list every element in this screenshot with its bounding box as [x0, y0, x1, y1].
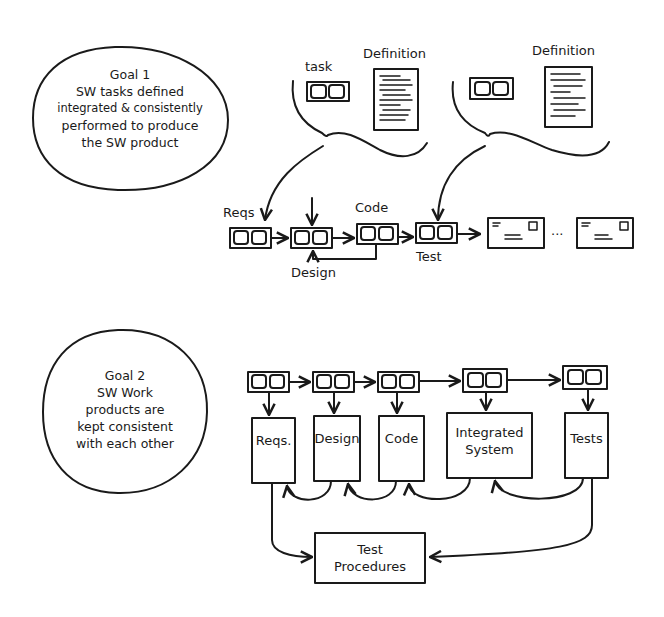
- goal1-line-2: integrated & consistently: [35, 100, 225, 117]
- test-procedures-line2: Procedures: [334, 558, 406, 575]
- test-procedures-label: Test Procedures: [315, 533, 425, 583]
- goal2-line-1: SW Work: [45, 384, 205, 401]
- definition-label-2: Definition: [532, 44, 595, 57]
- test-procedures-line1: Test: [357, 541, 383, 558]
- integrated-system-line1: Integrated: [455, 424, 523, 441]
- definition-label-1: Definition: [363, 47, 426, 60]
- design-label: Design: [291, 266, 336, 279]
- integrated-system-line2: System: [465, 441, 513, 458]
- goal2-line-2: products are: [45, 401, 205, 418]
- brace-1: [293, 81, 427, 156]
- ellipsis: ···: [551, 228, 563, 241]
- task-icon-box-2: [470, 78, 513, 99]
- task-label: task: [305, 60, 332, 73]
- definition-doc-2: [545, 67, 592, 127]
- goal1-title: Goal 1: [35, 66, 225, 83]
- design-product-label: Design: [314, 416, 360, 461]
- goal2-line-3: kept consistent: [45, 418, 205, 435]
- code-product-label: Code: [379, 416, 424, 461]
- goal2-text: Goal 2 SW Work products are kept consist…: [45, 367, 205, 452]
- code-product-text: Code: [385, 430, 418, 447]
- integrated-system-label: Integrated System: [447, 413, 532, 468]
- tests-product-text: Tests: [570, 430, 602, 447]
- test-label: Test: [416, 250, 442, 263]
- reqs-product-text: Reqs.: [256, 432, 292, 449]
- goal1-line-4: the SW product: [35, 134, 225, 151]
- reqs-product-label: Reqs.: [252, 418, 295, 463]
- goal1-text: Goal 1 SW tasks defined integrated & con…: [35, 66, 225, 151]
- goal1-line-3: performed to produce: [35, 117, 225, 134]
- goal2-title: Goal 2: [45, 367, 205, 384]
- goal2-line-4: with each other: [45, 435, 205, 452]
- tests-product-label: Tests: [565, 413, 608, 463]
- design-product-text: Design: [315, 430, 360, 447]
- reqs-label: Reqs: [223, 206, 254, 219]
- goal1-line-1: SW tasks defined: [35, 83, 225, 100]
- code-label: Code: [355, 201, 388, 214]
